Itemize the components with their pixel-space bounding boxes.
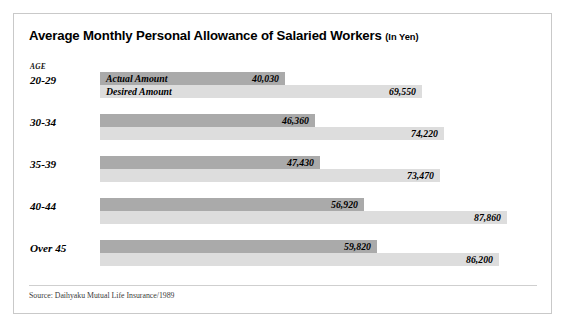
- bar-value-label: 86,200: [466, 254, 493, 265]
- bar-value-label: 69,550: [389, 86, 416, 97]
- bar-actual: Actual Amount40,030: [100, 72, 285, 85]
- chart-title: Average Monthly Personal Allowance of Sa…: [29, 28, 419, 43]
- bar-value-label: 46,360: [282, 115, 309, 126]
- bar-actual: 47,430: [100, 156, 320, 169]
- chart-title-unit: (In Yen): [385, 32, 418, 42]
- bar-value-label: 73,470: [407, 170, 434, 181]
- age-group-label: 35-39: [30, 158, 98, 170]
- chart-group-row: 35-3947,43073,470: [14, 156, 553, 183]
- chart-title-text: Average Monthly Personal Allowance of Sa…: [29, 28, 382, 43]
- bar-fill: [100, 240, 377, 253]
- bar-actual: 46,360: [100, 114, 315, 127]
- bar-desired: 73,470: [100, 169, 440, 182]
- bar-fill: [100, 198, 364, 211]
- bar-fill: [100, 253, 499, 266]
- age-axis-label: AGE: [30, 62, 46, 71]
- age-group-label: 30-34: [30, 116, 98, 128]
- bar-desired: 74,220: [100, 127, 444, 140]
- bar-fill: [100, 127, 444, 140]
- age-group-label: 20-29: [30, 74, 98, 86]
- bar-value-label: 56,920: [331, 199, 358, 210]
- chart-group-row: 40-4456,92087,860: [14, 198, 553, 225]
- bar-value-label: 74,220: [411, 128, 438, 139]
- chart-group-row: 30-3446,36074,220: [14, 114, 553, 141]
- legend-label-actual: Actual Amount: [106, 73, 167, 84]
- bar-actual: 59,820: [100, 240, 377, 253]
- chart-plot-area: 20-29Actual Amount40,030Desired Amount69…: [14, 72, 553, 284]
- bar-desired: 86,200: [100, 253, 499, 266]
- bar-value-label: 59,820: [344, 241, 371, 252]
- chart-card: Average Monthly Personal Allowance of Sa…: [13, 13, 552, 314]
- legend-label-desired: Desired Amount: [106, 86, 172, 97]
- bar-actual: 56,920: [100, 198, 364, 211]
- bar-fill: [100, 211, 507, 224]
- footer-divider: [29, 285, 537, 286]
- bar-value-label: 40,030: [252, 73, 279, 84]
- bar-desired: 87,860: [100, 211, 507, 224]
- age-group-label: 40-44: [30, 200, 98, 212]
- chart-group-row: 20-29Actual Amount40,030Desired Amount69…: [14, 72, 553, 99]
- age-group-label: Over 45: [30, 242, 98, 254]
- chart-group-row: Over 4559,82086,200: [14, 240, 553, 267]
- bar-value-label: 47,430: [287, 157, 314, 168]
- bar-desired: Desired Amount69,550: [100, 85, 422, 98]
- bar-value-label: 87,860: [474, 212, 501, 223]
- bar-fill: [100, 169, 440, 182]
- source-note: Source: Daihyaku Mutual Life Insurance/1…: [29, 291, 175, 300]
